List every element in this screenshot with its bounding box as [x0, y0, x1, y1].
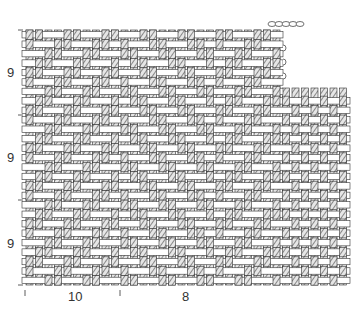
- warp-float: [140, 134, 147, 143]
- warp-float: [254, 115, 261, 124]
- warp-float: [36, 257, 43, 266]
- warp-float: [55, 200, 62, 209]
- weft-thread: [22, 249, 350, 255]
- warp-float: [340, 228, 347, 237]
- warp-float: [283, 210, 290, 219]
- warp-float: [83, 125, 90, 134]
- warp-float: [131, 172, 138, 181]
- warp-float: [93, 191, 100, 200]
- warp-float: [112, 106, 119, 115]
- warp-float: [254, 181, 261, 190]
- warp-float: [245, 238, 252, 247]
- warp-float: [55, 115, 62, 124]
- warp-float: [273, 87, 280, 96]
- warp-float: [150, 228, 157, 237]
- warp-float: [26, 191, 33, 200]
- warp-float: [74, 181, 81, 190]
- warp-float: [245, 276, 252, 285]
- warp-float: [112, 58, 119, 67]
- warp-float: [150, 30, 157, 39]
- warp-float: [150, 77, 157, 86]
- warp-float: [188, 219, 195, 228]
- warp-float: [188, 106, 195, 115]
- warp-float: [235, 49, 242, 58]
- warp-float: [254, 191, 261, 200]
- warp-float: [121, 228, 128, 237]
- warp-float: [245, 87, 252, 96]
- warp-float: [64, 153, 71, 162]
- warp-float: [226, 257, 233, 266]
- warp-float: [36, 181, 43, 190]
- warp-float: [178, 58, 185, 67]
- weft-end: [283, 73, 286, 79]
- warp-float: [26, 68, 33, 77]
- warp-float: [321, 247, 328, 256]
- warp-float: [264, 68, 271, 77]
- warp-float: [83, 58, 90, 67]
- warp-float: [311, 106, 318, 115]
- warp-float: [121, 49, 128, 58]
- warp-float: [140, 172, 147, 181]
- warp-float: [216, 228, 223, 237]
- warp-float: [254, 266, 261, 275]
- warp-float: [159, 266, 166, 275]
- warp-float: [330, 200, 337, 209]
- warp-float: [83, 276, 90, 285]
- warp-float: [112, 68, 119, 77]
- warp-float: [150, 68, 157, 77]
- warp-float: [140, 68, 147, 77]
- warp-float: [102, 30, 109, 39]
- warp-float: [102, 257, 109, 266]
- warp-float: [216, 106, 223, 115]
- warp-float: [311, 238, 318, 247]
- warp-float: [169, 125, 176, 134]
- warp-float: [150, 219, 157, 228]
- warp-float: [26, 228, 33, 237]
- warp-float: [216, 219, 223, 228]
- warp-float: [64, 115, 71, 124]
- warp-float: [131, 87, 138, 96]
- warp-float: [45, 238, 52, 247]
- warp-float: [74, 58, 81, 67]
- warp-float: [254, 257, 261, 266]
- warp-float: [45, 96, 52, 105]
- warp-float: [273, 125, 280, 134]
- warp-float: [302, 266, 309, 275]
- warp-float: [188, 266, 195, 275]
- warp-float: [45, 200, 52, 209]
- warp-float: [178, 30, 185, 39]
- warp-float: [216, 115, 223, 124]
- warp-float: [159, 39, 166, 48]
- warp-float: [45, 210, 52, 219]
- warp-float: [140, 143, 147, 152]
- warp-float: [55, 49, 62, 58]
- warp-float: [93, 276, 100, 285]
- warp-float: [131, 134, 138, 143]
- warp-float: [178, 210, 185, 219]
- warp-float: [169, 172, 176, 181]
- warp-float: [188, 228, 195, 237]
- warp-float: [74, 134, 81, 143]
- warp-float: [93, 39, 100, 48]
- warp-float: [112, 181, 119, 190]
- warp-float: [36, 134, 43, 143]
- warp-float: [188, 30, 195, 39]
- warp-float: [159, 276, 166, 285]
- warp-float: [74, 247, 81, 256]
- warp-float: [235, 172, 242, 181]
- warp-float: [36, 143, 43, 152]
- warp-float: [330, 219, 337, 228]
- warp-float: [169, 96, 176, 105]
- warp-float: [131, 49, 138, 58]
- warp-float: [140, 96, 147, 105]
- warp-float: [207, 49, 214, 58]
- warp-float: [55, 125, 62, 134]
- warp-float: [197, 200, 204, 209]
- warp-float: [216, 266, 223, 275]
- warp-float: [150, 39, 157, 48]
- warp-float: [311, 143, 318, 152]
- warp-float: [292, 162, 299, 171]
- weft-thread: [22, 239, 350, 245]
- warp-float: [292, 181, 299, 190]
- warp-float: [55, 39, 62, 48]
